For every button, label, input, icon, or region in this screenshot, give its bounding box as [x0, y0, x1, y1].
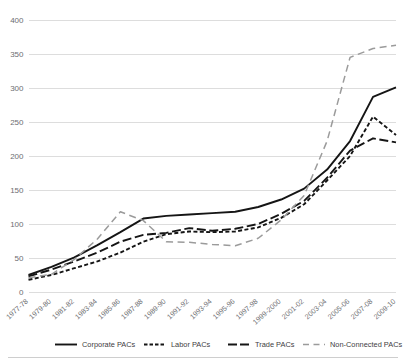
x-axis-tick-label: 2003-04 — [303, 297, 329, 321]
legend-label: Trade PACs — [255, 340, 295, 349]
y-axis-tick-label: 150 — [10, 186, 24, 195]
y-axis-tick-label: 250 — [10, 118, 24, 127]
chart-legend: Corporate PACsLabor PACsTrade PACsNon-Co… — [55, 340, 402, 349]
x-axis-tick-label: 1983-84 — [73, 297, 99, 321]
x-axis-tick-label: 1977-78 — [4, 297, 30, 321]
x-axis-tick-label: 1989-90 — [142, 297, 168, 321]
x-axis-tick-label: 1995-96 — [211, 297, 237, 321]
y-axis-tick-label: 350 — [10, 50, 24, 59]
legend-label: Labor PACs — [171, 340, 211, 349]
x-axis-tick-label: 1993-94 — [188, 297, 214, 321]
y-axis-tick-label: 100 — [10, 220, 24, 229]
x-axis-tick-label: 1981-82 — [50, 297, 76, 321]
y-axis-tick-label: 300 — [10, 84, 24, 93]
x-axis-tick-label: 2005-06 — [326, 297, 352, 321]
x-axis-tick-label: 2001-02 — [280, 297, 306, 321]
data-series-group — [29, 45, 397, 280]
x-axis-tick-label: 1979-80 — [27, 297, 53, 321]
legend-label: Corporate PACs — [82, 340, 136, 349]
series-line — [29, 87, 397, 275]
y-axis-tick-labels: 050100150200250300350400 — [10, 16, 24, 297]
x-axis-tick-label: 2007-08 — [349, 297, 375, 321]
x-axis-tick-label: 2009-10 — [372, 297, 398, 321]
y-axis-tick-label: 200 — [10, 152, 24, 161]
series-line — [29, 117, 397, 280]
y-axis-tick-label: 0 — [19, 288, 24, 297]
x-axis-tick-labels: 1977-781979-801981-821983-841985-861987-… — [4, 297, 397, 327]
legend-label: Non-Connected PACs — [330, 340, 402, 349]
line-chart: 050100150200250300350400 1977-781979-801… — [0, 0, 406, 361]
x-axis-tick-label: 1987-88 — [119, 297, 145, 321]
chart-container: 050100150200250300350400 1977-781979-801… — [0, 0, 406, 361]
x-axis-tick-label: 1985-86 — [96, 297, 122, 321]
y-axis-tick-label: 400 — [10, 16, 24, 25]
series-line — [29, 138, 397, 276]
y-axis-tick-label: 50 — [15, 254, 24, 263]
x-axis-tick-label: 1991-92 — [165, 297, 191, 321]
